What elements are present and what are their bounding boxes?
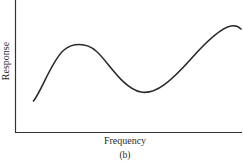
y-axis-label: Response (0, 41, 11, 80)
figure-caption: (b) (119, 150, 130, 161)
x-axis-label: Frequency (104, 135, 146, 146)
response-frequency-chart: Response Frequency (b) (0, 0, 243, 161)
response-curve (34, 26, 242, 101)
